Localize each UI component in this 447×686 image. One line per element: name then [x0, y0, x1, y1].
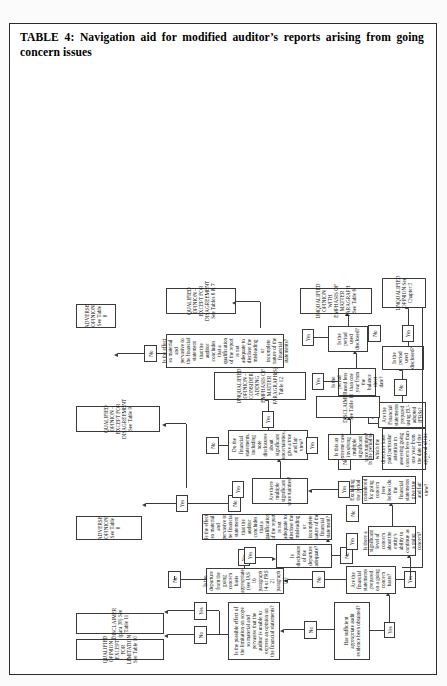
terminal-node-t10[interactable]: UNQUALIFIED OPINION See Chapter 3	[382, 278, 426, 308]
decision-node-d6[interactable]: Is the effect so material and pervasive …	[202, 514, 332, 540]
edge-label-yes-d8: Yes	[338, 481, 350, 498]
edge-label-no-d2: No	[194, 626, 207, 644]
edge-d9-h	[280, 462, 281, 478]
edge-label-yes-d14: Yes	[312, 373, 324, 390]
arrow-d17-to-t5	[114, 353, 118, 357]
table-title: TABLE 4: Navigation aid for modified aud…	[20, 31, 424, 60]
decision-node-d12[interactable]: Is the period to which the directors hav…	[382, 428, 426, 470]
flowchart-canvas: Has sufficient appropriate audit evidenc…	[16, 60, 430, 668]
edge-d10-no-v	[219, 445, 228, 446]
edge-d14-h	[356, 354, 357, 368]
edge-label-no-d13: No	[394, 379, 407, 396]
arrow-d1-to-d2	[280, 629, 284, 633]
edge-bottom-rail	[422, 308, 423, 568]
edge-d6-up	[146, 503, 176, 504]
terminal-node-t6[interactable]: DISCLAIMER See Table 10	[316, 396, 380, 418]
decision-node-d9[interactable]: Are there multiple significant uncertain…	[252, 478, 308, 504]
decision-node-d10[interactable]: Do the financial statements, including n…	[228, 430, 308, 460]
page-root: TABLE 4: Navigation aid for modified aud…	[0, 0, 447, 686]
edge-d8-yes-v	[350, 489, 362, 490]
edge-label-yes-d7: Yes	[346, 533, 358, 550]
arrow-to-t9	[232, 301, 236, 305]
edge-label-yes-d10: Yes	[262, 411, 274, 428]
edge-d10-yes-h	[268, 428, 269, 430]
edge-d13-h	[402, 396, 403, 402]
edge-label-yes-d6: Yes	[176, 495, 188, 512]
edge-d14-v	[324, 381, 338, 382]
edge-d3-yes-h	[410, 558, 411, 580]
edge-d2-yes-seg	[207, 610, 219, 611]
edge-label-yes-d11: Yes	[306, 437, 318, 454]
edge-d8-yes-up	[312, 489, 338, 490]
edge-d6-v	[188, 503, 228, 504]
edge-long-to-t4	[186, 424, 187, 488]
arrow-d6-to-t3	[142, 503, 146, 507]
edge-d2-no-up	[168, 634, 194, 635]
edge-to-t9	[236, 301, 260, 302]
edge-d1-yes-h	[389, 596, 390, 622]
decision-node-d13[interactable]: Are the Financial statements prepared us…	[378, 402, 426, 428]
edge-d13-h2	[402, 371, 403, 379]
decision-node-d2[interactable]: Is the possible effect of the limitation…	[228, 602, 280, 660]
terminal-node-t8[interactable]: UNQUALIFIED OPINION WITH EMPHASIS OF MAT…	[300, 288, 372, 314]
edge-label-yes-d5: Yes	[244, 547, 256, 564]
terminal-node-t4[interactable]: QUALIFIED OPINION – EXCEPT FOR DISAGREEM…	[76, 406, 160, 432]
decision-node-d3[interactable]: Are the financial statements prepared on…	[346, 566, 396, 594]
decision-node-d1[interactable]: Has sufficient appropriate audit evidenc…	[334, 602, 370, 660]
edge-d4-no-seg	[181, 579, 206, 580]
edge-d15-h	[408, 342, 409, 346]
edge-d16-v	[314, 337, 328, 338]
edge-d17-up	[118, 353, 144, 354]
edge-d17-v	[157, 353, 166, 354]
decision-node-d7[interactable]: Is there a significant level of concern …	[368, 526, 416, 556]
edge-bottom-rail-riser	[402, 567, 422, 568]
decision-node-d4[interactable]: Is the departure from the going concern …	[206, 568, 284, 594]
edge-label-no-d1: No	[304, 621, 317, 639]
edge-d4-no-h	[174, 576, 175, 580]
edge-d3-no-up	[288, 579, 312, 580]
decision-node-d17[interactable]: Is the effect so material and pervasive …	[166, 334, 284, 368]
edge-label-yes-d9: Yes	[232, 481, 244, 498]
decision-node-d16[interactable]: Is the period used disclosed?	[328, 326, 368, 352]
edge-d1-no-seg2	[284, 629, 304, 630]
terminal-node-t9[interactable]: QUALIFIED OPINION – EXCEPT FOR DISAGREEM…	[166, 288, 236, 314]
edge-d5-no-seg	[332, 555, 340, 556]
edge-label-yes-d1: Yes	[384, 622, 395, 638]
decision-node-d8[interactable]: Excluding the period considered for goin…	[362, 476, 416, 504]
edge-d4-yes-h	[244, 566, 245, 568]
edge-d15-h2	[408, 309, 409, 325]
edge-label-no-d7: No	[346, 505, 359, 522]
arrow-d2-no-to-t1	[164, 634, 168, 638]
arrow-d8-to-d9	[308, 489, 312, 493]
arrow-to-t4	[162, 423, 166, 427]
terminal-node-t1[interactable]: QUALIFIED OPINION – EXCEPT FOR LIMITATIO…	[76, 639, 164, 660]
edge-d1-no-seg	[317, 629, 334, 630]
edge-d1-yes-seg	[370, 630, 384, 631]
arrow-d2-yes-to-t2	[164, 610, 168, 614]
decision-node-d15[interactable]: Is the period used disclosed?	[382, 346, 424, 370]
edge-d2-join	[219, 611, 220, 635]
edge-to-t4	[166, 423, 186, 424]
edge-d2-no-seg	[207, 634, 228, 635]
edge-d3-no-seg	[325, 579, 346, 580]
edge-d3-yes-seg	[396, 579, 404, 580]
terminal-node-t3[interactable]: ADVERSE OPINION See Table 8	[76, 516, 142, 540]
terminal-node-t2[interactable]: DISCLAIMER (para 38) See Table 11	[76, 613, 164, 634]
edge-label-yes-d2: Yes	[194, 602, 207, 620]
edge-label-yes-d16: Yes	[302, 329, 314, 346]
flowchart-viewport: Has sufficient appropriate audit evidenc…	[16, 60, 430, 668]
edge-h-to-t9	[260, 302, 261, 328]
terminal-node-t5[interactable]: ADVERSE OPINION See Table 8	[76, 304, 116, 328]
edge-label-yes-d15: Yes	[402, 325, 414, 342]
edge-label-no-d3: No	[312, 571, 325, 588]
decision-node-d5[interactable]: Is disclosure of the departure adequate?	[276, 544, 332, 568]
edge-label-no-d15: No	[368, 325, 381, 342]
edge-label-no-d10: No	[206, 437, 219, 454]
edge-d7-h	[392, 506, 393, 526]
edge-d2-yes-up	[168, 610, 194, 611]
edge-label-no-d17: No	[144, 345, 157, 362]
terminal-node-t7[interactable]: UNQUALIFIED OPINION – CONSIDER ADDING EM…	[214, 372, 306, 400]
